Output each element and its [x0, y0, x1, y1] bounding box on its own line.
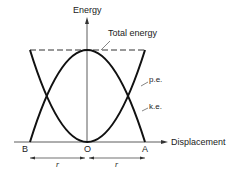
- r-left-label: r: [56, 161, 59, 169]
- y-axis-arrow-icon: [85, 17, 89, 24]
- ke-label: k.e.: [149, 103, 162, 111]
- ke-leader: [142, 108, 148, 111]
- point-a-label: A: [142, 145, 148, 154]
- r-right-label: r: [115, 161, 118, 169]
- y-axis-label: Energy: [73, 6, 102, 15]
- arrowhead-icon: [30, 157, 35, 160]
- pe-curve: [30, 50, 145, 142]
- point-b-label: B: [22, 145, 28, 154]
- total-energy-label: Total energy: [108, 29, 157, 38]
- pe-label: p.e.: [149, 76, 162, 84]
- x-axis-label: Displacement: [171, 138, 226, 147]
- arrowhead-icon: [140, 157, 145, 160]
- arrowhead-icon: [80, 157, 85, 160]
- point-o-label: O: [84, 145, 91, 154]
- arrowhead-icon: [89, 157, 94, 160]
- pe-leader: [141, 82, 148, 86]
- total-energy-leader: [101, 41, 110, 50]
- x-axis-arrow-icon: [161, 140, 168, 144]
